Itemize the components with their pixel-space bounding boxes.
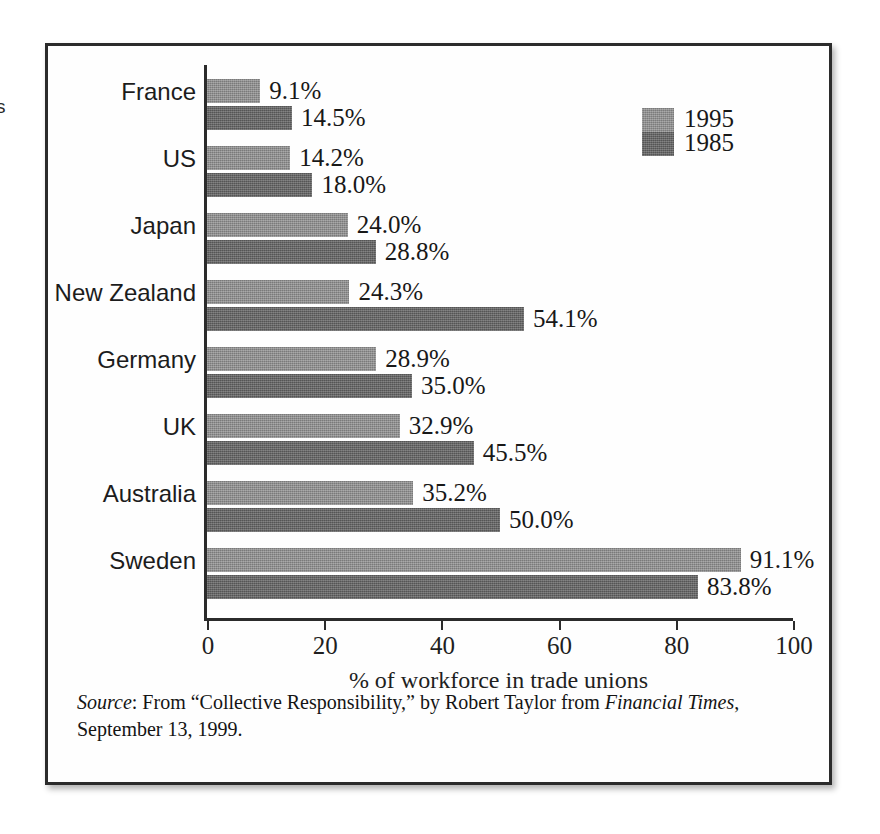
category-label-australia: Australia — [103, 481, 196, 507]
bar-value-label: 18.0% — [321, 171, 386, 199]
source-publication: Financial Times — [605, 691, 734, 713]
bar-value-label: 24.0% — [357, 211, 422, 239]
bar-sweden-1985 — [207, 575, 698, 599]
category-label-germany: Germany — [97, 347, 196, 373]
x-axis-tick-label: 60 — [547, 632, 572, 660]
bar-value-label: 14.5% — [301, 104, 366, 132]
x-axis-tick-label: 20 — [313, 632, 338, 660]
bar-us-1985 — [207, 173, 312, 197]
bar-uk-1995 — [207, 414, 400, 438]
category-label-france: France — [121, 79, 196, 105]
bar-value-label: 83.8% — [707, 573, 772, 601]
source-colon: : — [132, 691, 143, 713]
plot-region: 020406080100 France9.1%14.5%US14.2%18.0%… — [48, 46, 829, 666]
bar-france-1995 — [207, 79, 260, 103]
bar-sweden-1995 — [207, 548, 741, 572]
x-axis-line — [204, 618, 793, 621]
figure-frame: 020406080100 France9.1%14.5%US14.2%18.0%… — [45, 43, 832, 785]
bar-germany-1995 — [207, 347, 376, 371]
bar-value-label: 28.9% — [385, 345, 450, 373]
bar-value-label: 91.1% — [750, 546, 815, 574]
bar-value-label: 35.2% — [422, 479, 487, 507]
bar-value-label: 50.0% — [509, 506, 574, 534]
bar-value-label: 32.9% — [409, 412, 474, 440]
bar-new-zealand-1985 — [207, 307, 524, 331]
page-bleed-text: s — [0, 96, 6, 118]
category-label-sweden: Sweden — [109, 548, 196, 574]
category-label-japan: Japan — [131, 213, 196, 239]
bar-france-1985 — [207, 106, 292, 130]
x-axis-tick-label: 40 — [430, 632, 455, 660]
bar-value-label: 28.8% — [385, 238, 450, 266]
x-axis-tick — [793, 621, 795, 630]
bar-value-label: 14.2% — [299, 144, 364, 172]
x-axis-tick-label: 0 — [202, 632, 215, 660]
source-text-before: From “Collective Responsibility,” by Rob… — [142, 691, 604, 713]
source-note: Source: From “Collective Responsibility,… — [77, 689, 787, 743]
x-axis-tick — [559, 621, 561, 630]
x-axis-tick — [324, 621, 326, 630]
bar-value-label: 54.1% — [533, 305, 598, 333]
legend-label-1985: 1985 — [684, 129, 734, 157]
x-axis-tick — [441, 621, 443, 630]
bar-new-zealand-1995 — [207, 280, 349, 304]
category-label-us: US — [163, 146, 196, 172]
bar-japan-1985 — [207, 240, 376, 264]
x-axis-tick-label: 80 — [664, 632, 689, 660]
bar-value-label: 45.5% — [483, 439, 548, 467]
x-axis-tick — [207, 621, 209, 630]
bar-value-label: 35.0% — [421, 372, 486, 400]
bar-value-label: 9.1% — [269, 77, 321, 105]
legend-swatch-1995 — [642, 108, 674, 132]
category-label-uk: UK — [163, 414, 196, 440]
bar-japan-1995 — [207, 213, 348, 237]
category-label-new-zealand: New Zealand — [55, 280, 196, 306]
bar-australia-1985 — [207, 508, 500, 532]
bar-us-1995 — [207, 146, 290, 170]
bar-value-label: 24.3% — [358, 278, 423, 306]
legend-swatch-1985 — [642, 132, 674, 156]
bar-germany-1985 — [207, 374, 412, 398]
x-axis-tick-label: 100 — [775, 632, 813, 660]
bar-australia-1995 — [207, 481, 413, 505]
bar-uk-1985 — [207, 441, 474, 465]
source-label: Source — [77, 691, 132, 713]
x-axis-tick — [676, 621, 678, 630]
